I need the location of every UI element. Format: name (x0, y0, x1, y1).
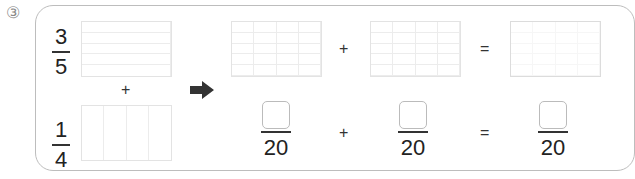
numerator-input-box[interactable] (399, 101, 427, 129)
grid-cell[interactable] (371, 65, 393, 76)
numerator: 1 (55, 119, 67, 141)
fraction-bar (52, 144, 70, 146)
grid-one-quarter[interactable] (81, 105, 172, 161)
grid-cell[interactable] (254, 65, 276, 76)
grid-cell[interactable] (393, 54, 415, 65)
grid-cell[interactable] (556, 54, 578, 65)
grid-cell[interactable] (533, 22, 555, 33)
grid-cell[interactable] (299, 33, 321, 44)
denominator: 5 (55, 56, 67, 78)
grid-cell[interactable] (533, 44, 555, 55)
grid-cell[interactable] (578, 33, 600, 44)
grid-cell[interactable] (82, 44, 171, 55)
grid-cell[interactable] (371, 44, 393, 55)
grid-cell[interactable] (578, 22, 600, 33)
grid-cell[interactable] (299, 54, 321, 65)
grid-cell[interactable] (82, 54, 171, 65)
grid-cell[interactable] (82, 65, 171, 76)
fraction-bar (261, 131, 291, 133)
grid-cell[interactable] (393, 44, 415, 55)
grid-cell[interactable] (511, 44, 533, 55)
grid-sum-result[interactable] (510, 21, 601, 77)
grid-cell[interactable] (299, 65, 321, 76)
grid-cell[interactable] (511, 65, 533, 76)
fraction-bar (398, 131, 428, 133)
grid-cell[interactable] (578, 65, 600, 76)
grid-cell[interactable] (511, 22, 533, 33)
grid-cell[interactable] (232, 22, 254, 33)
grid-cell[interactable] (556, 33, 578, 44)
numerator-input-box[interactable] (539, 101, 567, 129)
grid-cell[interactable] (578, 44, 600, 55)
grid-cell[interactable] (438, 44, 460, 55)
numerator-input-box[interactable] (262, 101, 290, 129)
grid-cell[interactable] (299, 22, 321, 33)
grid-cell[interactable] (82, 33, 171, 44)
grid-cell[interactable] (438, 65, 460, 76)
grid-cell[interactable] (393, 33, 415, 44)
grid-cell[interactable] (393, 22, 415, 33)
grid-cell[interactable] (438, 33, 460, 44)
grid-cell[interactable] (371, 33, 393, 44)
grid-cell[interactable] (277, 33, 299, 44)
grid-cell[interactable] (277, 44, 299, 55)
plus-operator-bottom: + (339, 125, 348, 141)
grid-cell[interactable] (556, 44, 578, 55)
fraction-one-quarter: 1 4 (52, 119, 70, 171)
problem-number: ③ (6, 5, 20, 21)
grid-cell[interactable] (232, 65, 254, 76)
grid-cell[interactable] (438, 54, 460, 65)
grid-cell[interactable] (104, 106, 126, 160)
grid-cell[interactable] (511, 54, 533, 65)
grid-cell[interactable] (371, 54, 393, 65)
grid-cell[interactable] (232, 44, 254, 55)
grid-cell[interactable] (416, 33, 438, 44)
grid-cell[interactable] (416, 54, 438, 65)
fraction-bar (52, 51, 70, 53)
denominator: 20 (401, 137, 425, 159)
grid-cell[interactable] (299, 44, 321, 55)
fraction-three-fifths: 3 5 (52, 26, 70, 78)
answer-fraction-result: 20 (538, 101, 568, 159)
grid-cell[interactable] (533, 65, 555, 76)
grid-cell[interactable] (277, 22, 299, 33)
grid-cell[interactable] (393, 65, 415, 76)
grid-cell[interactable] (82, 22, 171, 33)
grid-cell[interactable] (254, 44, 276, 55)
grid-cell[interactable] (232, 33, 254, 44)
grid-sum-term1[interactable] (231, 21, 322, 77)
denominator: 20 (541, 137, 565, 159)
plus-operator-left: + (121, 82, 130, 98)
grid-cell[interactable] (533, 33, 555, 44)
grid-cell[interactable] (556, 22, 578, 33)
plus-operator-top: + (339, 41, 348, 57)
grid-cell[interactable] (254, 22, 276, 33)
grid-cell[interactable] (254, 54, 276, 65)
right-arrow-icon (189, 80, 215, 100)
grid-cell[interactable] (232, 54, 254, 65)
grid-cell[interactable] (578, 54, 600, 65)
equals-operator-top: = (480, 41, 489, 57)
grid-cell[interactable] (533, 54, 555, 65)
grid-sum-term2[interactable] (370, 21, 461, 77)
fraction-bar (538, 131, 568, 133)
grid-cell[interactable] (82, 106, 104, 160)
grid-cell[interactable] (277, 65, 299, 76)
grid-cell[interactable] (416, 65, 438, 76)
grid-cell[interactable] (511, 33, 533, 44)
grid-cell[interactable] (127, 106, 149, 160)
grid-cell[interactable] (416, 44, 438, 55)
grid-cell[interactable] (277, 54, 299, 65)
grid-cell[interactable] (556, 65, 578, 76)
grid-cell[interactable] (416, 22, 438, 33)
equals-operator-bottom: = (480, 125, 489, 141)
grid-cell[interactable] (371, 22, 393, 33)
denominator: 4 (55, 149, 67, 171)
grid-cell[interactable] (149, 106, 171, 160)
numerator: 3 (55, 26, 67, 48)
denominator: 20 (264, 137, 288, 159)
answer-fraction-term2: 20 (398, 101, 428, 159)
grid-three-fifths[interactable] (81, 21, 172, 77)
grid-cell[interactable] (438, 22, 460, 33)
grid-cell[interactable] (254, 33, 276, 44)
